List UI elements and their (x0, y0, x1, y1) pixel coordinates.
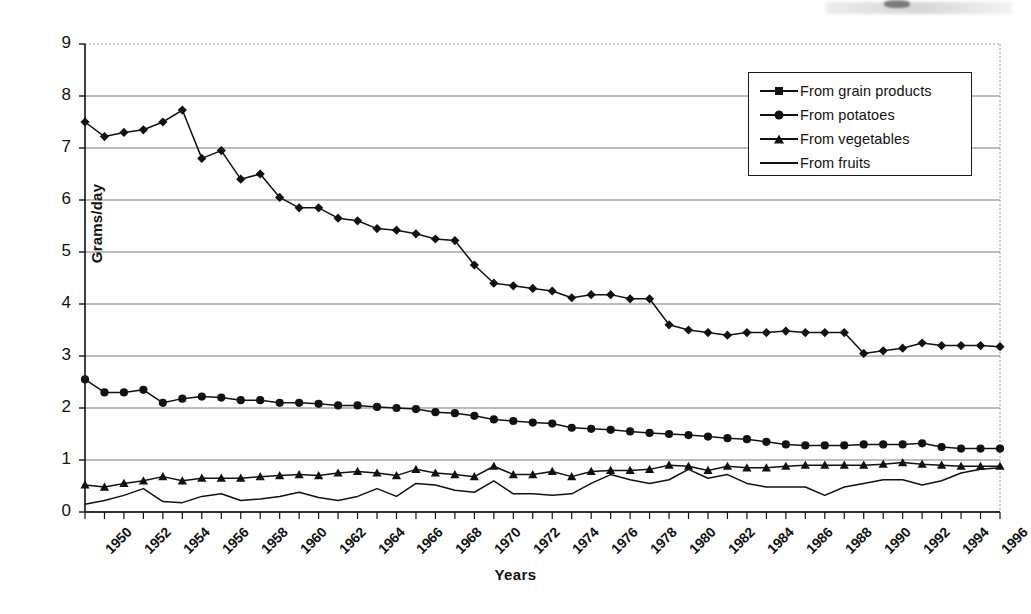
data-point-circle (568, 424, 576, 432)
data-point-diamond (548, 286, 557, 295)
data-point-circle (996, 444, 1004, 452)
data-point-circle (178, 395, 186, 403)
data-point-triangle (353, 467, 362, 475)
data-point-circle (490, 415, 498, 423)
data-point-circle (626, 427, 634, 435)
y-tick-label: 5 (45, 241, 71, 261)
legend-item-label: From fruits (800, 155, 870, 171)
data-point-diamond (314, 203, 323, 212)
data-point-circle (587, 425, 595, 433)
data-point-diamond (995, 342, 1004, 351)
data-point-diamond (567, 293, 576, 302)
data-point-diamond (918, 338, 927, 347)
data-point-circle (509, 417, 517, 425)
y-tick-label: 2 (45, 397, 71, 417)
legend-marker-diamond-icon (758, 82, 800, 100)
y-tick-label: 3 (45, 345, 71, 365)
data-point-triangle (489, 462, 498, 470)
data-point-circle (860, 440, 868, 448)
data-point-diamond (353, 216, 362, 225)
y-tick-label: 4 (45, 293, 71, 313)
x-axis-title: Years (0, 566, 1031, 583)
data-point-diamond (781, 326, 790, 335)
data-point-circle (412, 405, 420, 413)
legend-marker-circle-icon (758, 106, 800, 124)
data-point-circle (645, 429, 653, 437)
series-line (85, 379, 1000, 448)
data-point-diamond (684, 325, 693, 334)
data-point-diamond (976, 341, 985, 350)
data-point-circle (451, 409, 459, 417)
y-tick-label: 9 (45, 33, 71, 53)
data-point-circle (276, 399, 284, 407)
data-point-circle (899, 440, 907, 448)
legend-item-label: From vegetables (800, 131, 910, 147)
data-point-circle (353, 401, 361, 409)
legend-item: From grain products (749, 79, 971, 103)
data-point-diamond (119, 128, 128, 137)
legend-item: From potatoes (749, 103, 971, 127)
data-point-triangle (411, 465, 420, 473)
data-point-diamond (236, 175, 245, 184)
data-point-circle (723, 434, 731, 442)
data-point-circle (120, 388, 128, 396)
data-point-diamond (801, 328, 810, 337)
data-point-circle (762, 438, 770, 446)
data-point-circle (976, 444, 984, 452)
data-point-circle (159, 399, 167, 407)
data-point-diamond (606, 290, 615, 299)
data-point-circle (840, 441, 848, 449)
data-point-circle (782, 440, 790, 448)
data-point-diamond (762, 328, 771, 337)
data-point-diamond (333, 214, 342, 223)
data-point-diamond (703, 328, 712, 337)
data-point-diamond (178, 105, 187, 114)
data-point-diamond (820, 328, 829, 337)
data-point-triangle (898, 458, 907, 466)
data-point-circle (295, 399, 303, 407)
y-tick-label: 7 (45, 137, 71, 157)
data-point-circle (217, 394, 225, 402)
data-point-circle (198, 392, 206, 400)
data-point-circle (704, 433, 712, 441)
legend-item-label: From potatoes (800, 107, 895, 123)
data-point-diamond (898, 344, 907, 353)
data-point-circle (256, 396, 264, 404)
data-point-triangle (548, 467, 557, 475)
data-point-triangle (158, 472, 167, 480)
data-point-circle (801, 441, 809, 449)
y-tick-label: 1 (45, 449, 71, 469)
data-point-circle (957, 444, 965, 452)
data-point-circle (431, 408, 439, 416)
data-point-circle (470, 412, 478, 420)
data-point-diamond (372, 224, 381, 233)
data-point-diamond (723, 331, 732, 340)
y-tick-label: 6 (45, 189, 71, 209)
data-point-diamond (158, 117, 167, 126)
data-point-circle (607, 426, 615, 434)
data-point-diamond (742, 328, 751, 337)
data-point-circle (373, 403, 381, 411)
legend-marker-triangle-icon (758, 130, 800, 148)
data-point-circle (334, 401, 342, 409)
data-point-circle (743, 435, 751, 443)
scan-artifact (826, 2, 1012, 14)
data-point-circle (237, 396, 245, 404)
legend-item: From vegetables (749, 127, 971, 151)
data-point-circle (879, 440, 887, 448)
data-point-diamond (937, 341, 946, 350)
data-point-circle (139, 386, 147, 394)
data-point-diamond (626, 294, 635, 303)
data-point-diamond (587, 290, 596, 299)
y-tick-label: 0 (45, 501, 71, 521)
data-point-circle (684, 431, 692, 439)
data-point-circle (529, 418, 537, 426)
data-point-circle (100, 388, 108, 396)
chart-legend: From grain products From potatoes From v… (748, 72, 972, 176)
data-point-diamond (217, 146, 226, 155)
data-point-circle (81, 375, 89, 383)
data-point-diamond (295, 203, 304, 212)
data-point-circle (821, 441, 829, 449)
data-point-diamond (411, 229, 420, 238)
data-point-circle (937, 443, 945, 451)
